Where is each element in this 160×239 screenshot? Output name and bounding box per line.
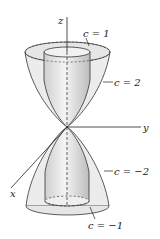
y-axis-label: y	[142, 122, 149, 133]
label-c2: c = 2	[114, 77, 141, 88]
level-surfaces-diagram: z y x c = 1 c = 2 c = −2 c = −1	[0, 0, 160, 239]
label-c1: c = 1	[83, 28, 110, 39]
x-axis-label: x	[10, 188, 16, 199]
label-cm2: c = −2	[114, 166, 149, 177]
z-axis-label: z	[57, 15, 64, 26]
label-cm1: c = −1	[88, 220, 123, 231]
